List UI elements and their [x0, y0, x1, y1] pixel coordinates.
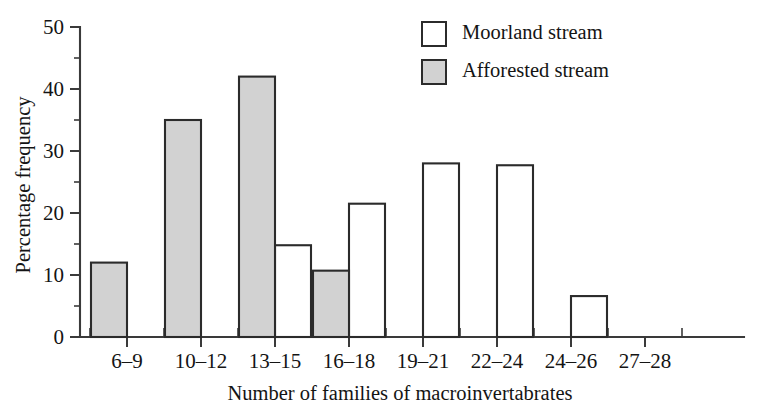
x-tick-labels: 6–910–1213–1516–1819–2122–2424–2627–28: [111, 349, 671, 373]
x-tick-label: 6–9: [111, 349, 143, 373]
legend-swatch-moorland: [422, 22, 446, 46]
bar-chart: 01020304050 6–910–1213–1516–1819–2122–24…: [0, 0, 758, 411]
x-axis-title: Number of families of macroinvertabrates: [228, 382, 573, 404]
y-axis: [70, 27, 80, 337]
y-tick-label: 20: [43, 201, 64, 225]
y-tick-labels: 01020304050: [43, 15, 64, 349]
chart-legend: Moorland streamAfforested stream: [422, 21, 609, 84]
x-tick-label: 13–15: [249, 349, 302, 373]
bar-moorland: [275, 245, 311, 337]
bar-afforested: [239, 77, 275, 337]
bars-layer: [91, 77, 607, 337]
y-tick-label: 40: [43, 77, 64, 101]
x-tick-label: 27–28: [619, 349, 672, 373]
bar-afforested: [313, 271, 349, 337]
y-tick-label: 0: [54, 325, 65, 349]
bar-moorland: [571, 296, 607, 337]
x-tick-label: 24–26: [545, 349, 598, 373]
bar-afforested: [165, 120, 201, 337]
bar-afforested: [91, 263, 127, 337]
x-tick-label: 16–18: [323, 349, 376, 373]
bar-moorland: [349, 204, 385, 337]
x-tick-label: 10–12: [175, 349, 228, 373]
legend-swatch-afforested: [422, 60, 446, 84]
bar-moorland: [497, 165, 533, 337]
y-axis-title: Percentage frequency: [12, 96, 35, 274]
x-tick-label: 22–24: [471, 349, 524, 373]
x-tick-label: 19–21: [397, 349, 450, 373]
y-tick-label: 50: [43, 15, 64, 39]
bar-moorland: [423, 163, 459, 337]
y-tick-label: 30: [43, 139, 64, 163]
chart-figure: 01020304050 6–910–1213–1516–1819–2122–24…: [0, 0, 758, 411]
y-tick-label: 10: [43, 263, 64, 287]
legend-label-moorland: Moorland stream: [462, 21, 603, 43]
legend-label-afforested: Afforested stream: [462, 59, 609, 81]
